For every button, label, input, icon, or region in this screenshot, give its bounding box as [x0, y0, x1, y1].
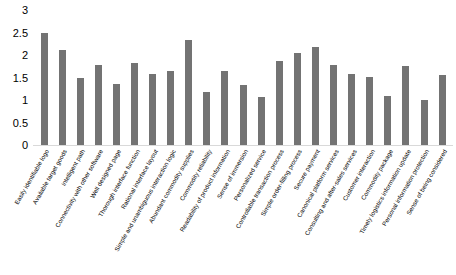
bar-slot — [433, 10, 451, 145]
x-label-slot: Well designed page — [107, 146, 125, 275]
bar-series — [33, 10, 453, 145]
y-axis: 32.521.510.50 — [0, 0, 33, 160]
bar[interactable] — [421, 100, 428, 145]
bar-slot — [379, 10, 397, 145]
bar-slot — [325, 10, 343, 145]
bar-slot — [252, 10, 270, 145]
bar-slot — [198, 10, 216, 145]
bar[interactable] — [113, 84, 120, 145]
bar[interactable] — [258, 97, 265, 145]
plot-area — [33, 10, 453, 145]
y-tick-label: 0.5 — [13, 117, 28, 128]
bar-slot — [361, 10, 379, 145]
bar[interactable] — [59, 50, 66, 145]
bar[interactable] — [348, 74, 355, 145]
bar[interactable] — [203, 92, 210, 145]
bar-slot — [89, 10, 107, 145]
bar-slot — [53, 10, 71, 145]
bar-chart: 32.521.510.50 Easily identifiable logoAv… — [0, 0, 456, 275]
x-label-slot: Commodity reliability — [198, 146, 216, 275]
bar-slot — [180, 10, 198, 145]
bar-slot — [71, 10, 89, 145]
bar-slot — [343, 10, 361, 145]
bar-slot — [288, 10, 306, 145]
bar-slot — [216, 10, 234, 145]
bar[interactable] — [131, 63, 138, 145]
bar-slot — [270, 10, 288, 145]
x-label-slot: Easily identifiable logo — [35, 146, 53, 275]
x-axis-labels: Easily identifiable logoAvailable target… — [33, 146, 453, 275]
bar[interactable] — [240, 85, 247, 145]
bar[interactable] — [41, 33, 48, 146]
bar-slot — [162, 10, 180, 145]
bar-slot — [397, 10, 415, 145]
bar[interactable] — [276, 61, 283, 145]
bar[interactable] — [439, 75, 446, 145]
y-tick-label: 0 — [22, 140, 28, 151]
y-tick-label: 3 — [22, 5, 28, 16]
bar-slot — [234, 10, 252, 145]
bar[interactable] — [294, 53, 301, 145]
y-tick-label: 2.5 — [13, 27, 28, 38]
bar[interactable] — [185, 40, 192, 145]
bar[interactable] — [149, 74, 156, 145]
bar[interactable] — [330, 65, 337, 145]
bar-slot — [125, 10, 143, 145]
x-label-slot: Canonical platform services — [325, 146, 343, 275]
bar[interactable] — [312, 47, 319, 145]
bar-slot — [306, 10, 324, 145]
bar[interactable] — [77, 78, 84, 146]
bar-slot — [144, 10, 162, 145]
bar-slot — [415, 10, 433, 145]
bar[interactable] — [402, 66, 409, 145]
bar-slot — [107, 10, 125, 145]
bar[interactable] — [366, 77, 373, 145]
x-label-slot: Personal information protection — [415, 146, 433, 275]
y-tick-label: 1 — [22, 95, 28, 106]
x-label-slot: Sense of being considered — [433, 146, 451, 275]
bar[interactable] — [167, 71, 174, 145]
bar[interactable] — [221, 71, 228, 145]
bar[interactable] — [384, 96, 391, 146]
y-tick-label: 2 — [22, 50, 28, 61]
x-label-slot: Readability of product information — [216, 146, 234, 275]
y-tick-label: 1.5 — [13, 72, 28, 83]
x-label-slot: Consulting and after-sales services — [343, 146, 361, 275]
bar-slot — [35, 10, 53, 145]
bar[interactable] — [95, 65, 102, 145]
x-label-slot: Simple and unambiguous interaction logic — [162, 146, 180, 275]
